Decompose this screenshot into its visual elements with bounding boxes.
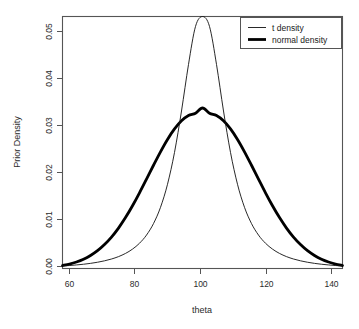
x-tick-label: 120 <box>259 279 273 289</box>
legend: t density normal density <box>241 18 342 49</box>
y-tick-label: 0.00 <box>44 258 54 275</box>
data-curves <box>63 17 343 266</box>
prior-density-chart: 0.00 0.01 0.02 0.03 0.04 0.05 Prior Dens… <box>0 0 359 329</box>
y-tick-label: 0.03 <box>44 117 54 134</box>
x-axis-title: theta <box>192 305 212 315</box>
legend-label-t-density: t density <box>272 23 304 33</box>
y-tick-label: 0.05 <box>44 23 54 40</box>
plot-panel-border <box>63 17 343 269</box>
y-axis: 0.00 0.01 0.02 0.03 0.04 0.05 Prior Dens… <box>12 23 63 275</box>
x-tick-label: 100 <box>193 279 207 289</box>
legend-label-normal-density: normal density <box>272 35 328 45</box>
t-density-curve <box>63 17 343 266</box>
chart-figure: 0.00 0.01 0.02 0.03 0.04 0.05 Prior Dens… <box>0 0 359 329</box>
y-tick-label: 0.04 <box>44 70 54 87</box>
normal-density-curve <box>63 108 343 266</box>
x-tick-label: 60 <box>65 279 75 289</box>
x-tick-group <box>70 269 332 275</box>
x-tick-label: 80 <box>130 279 140 289</box>
x-tick-label: 140 <box>324 279 338 289</box>
x-axis: 60 80 100 120 140 theta <box>65 269 339 316</box>
y-tick-label: 0.01 <box>44 211 54 228</box>
y-tick-label: 0.02 <box>44 164 54 181</box>
y-axis-title: Prior Density <box>12 116 22 168</box>
y-tick-group <box>57 32 63 267</box>
